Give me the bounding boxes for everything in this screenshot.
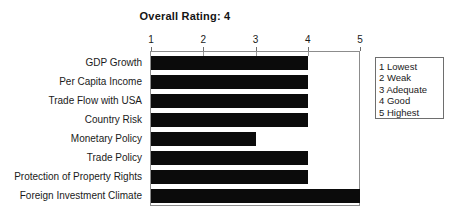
category-axis-labels: GDP GrowthPer Capita IncomeTrade Flow wi… (0, 51, 146, 206)
bar-row (151, 92, 359, 111)
bar-row (151, 54, 359, 73)
bar-row (151, 111, 359, 130)
bars-layer (151, 52, 359, 205)
legend-item: 4 Good (379, 95, 443, 106)
bar (151, 170, 308, 184)
legend: 1 Lowest2 Weak3 Adequate4 Good5 Highest (375, 57, 444, 119)
bar (151, 56, 308, 70)
legend-item: 2 Weak (379, 72, 443, 83)
category-label: Trade Flow with USA (48, 91, 142, 110)
bar (151, 75, 308, 89)
category-label: Monetary Policy (71, 129, 142, 148)
x-axis: 12345 (151, 34, 360, 50)
category-label: GDP Growth (86, 53, 143, 72)
category-label: Foreign Investment Climate (20, 186, 142, 205)
bar-row (151, 73, 359, 92)
plot-inner-tick (203, 52, 204, 56)
plot-inner-tick (256, 52, 257, 56)
plot-inner-tick (308, 52, 309, 56)
bar (151, 151, 308, 165)
x-tick-label: 2 (200, 34, 206, 45)
bar (151, 94, 308, 108)
category-label: Trade Policy (87, 148, 142, 167)
x-tick-mark (360, 47, 361, 51)
x-tick-label: 4 (305, 34, 311, 45)
bar (151, 132, 256, 146)
bar (151, 189, 360, 203)
legend-item: 5 Highest (379, 107, 443, 118)
x-tick-label: 3 (253, 34, 259, 45)
bar-row (151, 149, 359, 168)
plot-area (150, 51, 360, 206)
category-label: Protection of Property Rights (14, 167, 142, 186)
x-tick-label: 5 (357, 34, 363, 45)
bar (151, 113, 308, 127)
legend-item: 3 Adequate (379, 84, 443, 95)
x-tick-label: 1 (148, 34, 154, 45)
category-label: Country Risk (85, 110, 142, 129)
bar-chart: Overall Rating: 4 12345 GDP GrowthPer Ca… (0, 0, 458, 223)
bar-row (151, 130, 359, 149)
bar-row (151, 168, 359, 187)
legend-item: 1 Lowest (379, 61, 443, 72)
bar-row (151, 187, 359, 206)
chart-title: Overall Rating: 4 (0, 10, 370, 22)
category-label: Per Capita Income (59, 72, 142, 91)
